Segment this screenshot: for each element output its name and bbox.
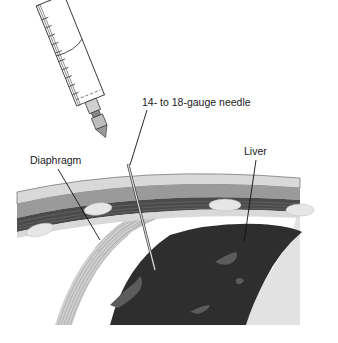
- needle-leader: [130, 110, 147, 165]
- rib-4: [286, 204, 314, 216]
- rib-3: [209, 199, 241, 211]
- liver-label: Liver: [244, 146, 267, 157]
- syringe: [36, 0, 119, 143]
- liver-biopsy-diagram: 14- to 18-gauge needle Diaphragm Liver: [0, 0, 338, 343]
- needle-label: 14- to 18-gauge needle: [142, 97, 251, 108]
- anatomy-illustration: [0, 0, 338, 343]
- diaphragm-label: Diaphragm: [30, 155, 81, 166]
